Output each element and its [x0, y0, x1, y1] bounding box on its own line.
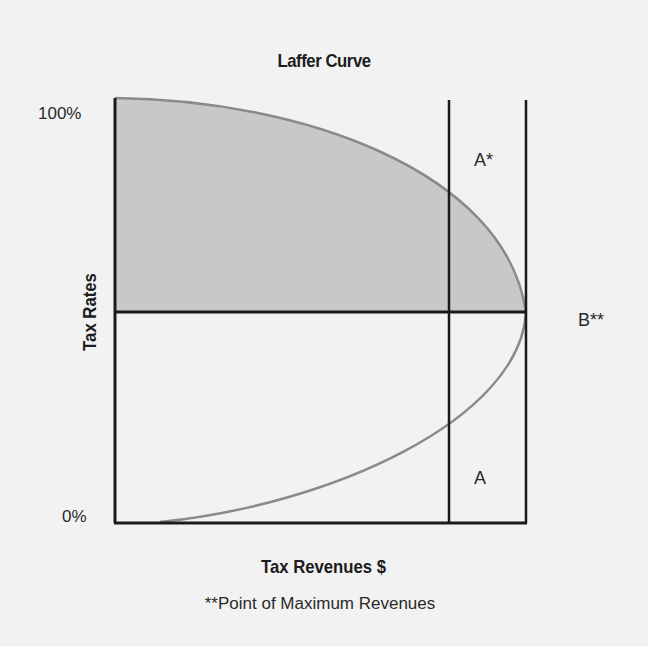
footnote: **Point of Maximum Revenues	[0, 594, 644, 614]
y-tick-0: 0%	[62, 507, 87, 527]
y-axis-label: Tax Rates	[79, 273, 101, 351]
point-label-a: A	[474, 468, 486, 489]
y-tick-100: 100%	[38, 104, 81, 124]
point-label-b-star: B**	[578, 310, 604, 331]
x-axis-label: Tax Revenues $	[38, 556, 608, 578]
laffer-curve-lower	[160, 312, 526, 522]
point-label-a-star: A*	[474, 150, 493, 171]
